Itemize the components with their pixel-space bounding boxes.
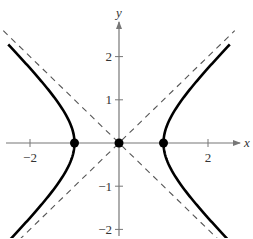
- hyperbola-chart: −22−2−112xy: [0, 0, 253, 238]
- y-tick-label: −1: [98, 179, 112, 194]
- y-tick-label: 2: [106, 49, 113, 64]
- x-tick-label: 2: [205, 150, 212, 165]
- y-tick-label: −2: [98, 222, 112, 237]
- x-axis-label: x: [243, 135, 250, 150]
- axis-labels: −22−2−112xy: [23, 5, 250, 237]
- x-tick-label: −2: [23, 150, 37, 165]
- hyperbola-left-branch: [8, 45, 74, 239]
- hyperbola-right-branch: [164, 45, 230, 239]
- y-axis-label: y: [114, 5, 122, 20]
- y-tick-label: 1: [106, 92, 113, 107]
- point-center: [115, 139, 124, 148]
- point-vertex-right: [159, 139, 168, 148]
- point-vertex-left: [70, 139, 79, 148]
